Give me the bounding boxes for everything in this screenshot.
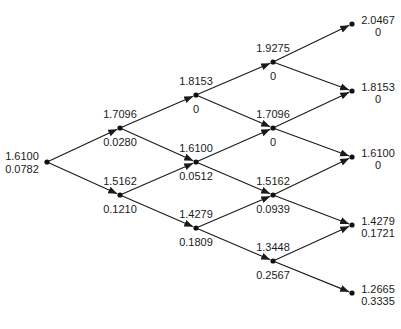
tree-node-dot — [44, 159, 49, 164]
tree-node-dot — [349, 154, 354, 159]
tree-node-dot — [117, 192, 122, 197]
node-value-label: 0 — [177, 103, 215, 115]
node-value-label: 0 — [254, 136, 292, 148]
node-value-label: 0.0512 — [177, 170, 215, 182]
node-value-label: 0.1721 — [359, 227, 397, 239]
node-value-label: 0.2567 — [254, 269, 292, 281]
node-price-label: 1.4279 — [359, 215, 397, 227]
tree-node-dot — [193, 225, 198, 230]
binomial-tree-diagram — [0, 0, 401, 329]
node-price-label: 1.7096 — [101, 108, 139, 120]
node-price-label: 1.3448 — [254, 241, 292, 253]
tree-edges — [47, 25, 349, 292]
tree-node-dot — [349, 222, 354, 227]
node-price-label: 1.9275 — [254, 42, 292, 54]
node-price-label: 1.5162 — [101, 175, 139, 187]
tree-node-dot — [117, 125, 122, 130]
tree-node-dot — [270, 125, 275, 130]
node-value-label: 0 — [359, 93, 397, 105]
node-price-label: 1.8153 — [177, 75, 215, 87]
tree-node-dot — [270, 192, 275, 197]
tree-node-dot — [193, 92, 198, 97]
node-value-label: 0.0782 — [3, 163, 41, 175]
node-value-label: 0.0280 — [101, 136, 139, 148]
tree-node-dot — [270, 59, 275, 64]
node-value-label: 0 — [359, 26, 397, 38]
node-price-label: 1.8153 — [359, 81, 397, 93]
node-price-label: 1.7096 — [254, 108, 292, 120]
tree-nodes — [44, 21, 354, 295]
tree-node-dot — [270, 258, 275, 263]
node-value-label: 0.1210 — [101, 203, 139, 215]
node-price-label: 1.4279 — [177, 208, 215, 220]
tree-node-dot — [349, 290, 354, 295]
node-value-label: 0.0939 — [254, 203, 292, 215]
node-price-label: 1.2665 — [359, 283, 397, 295]
node-price-label: 1.6100 — [3, 150, 41, 162]
tree-node-dot — [349, 88, 354, 93]
node-value-label: 0 — [359, 159, 397, 171]
node-price-label: 2.0467 — [359, 14, 397, 26]
node-value-label: 0.1809 — [177, 236, 215, 248]
node-price-label: 1.5162 — [254, 175, 292, 187]
node-value-label: 0.3335 — [359, 295, 397, 307]
node-price-label: 1.6100 — [177, 142, 215, 154]
node-price-label: 1.6100 — [359, 147, 397, 159]
node-value-label: 0 — [254, 70, 292, 82]
tree-node-dot — [193, 159, 198, 164]
tree-node-dot — [349, 21, 354, 26]
